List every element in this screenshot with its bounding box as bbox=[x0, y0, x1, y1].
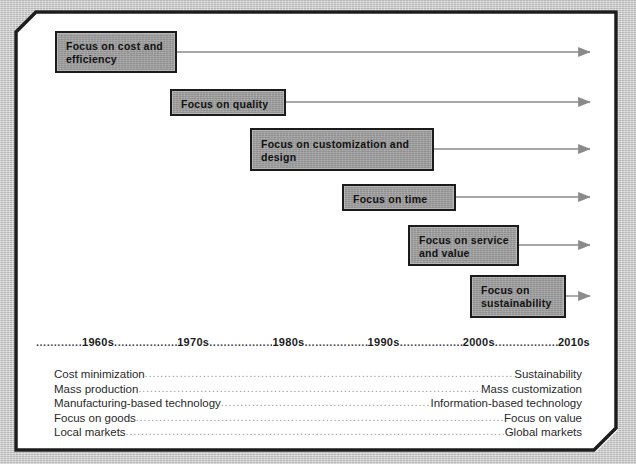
timeline-leader: ........................................… bbox=[495, 336, 558, 348]
transition-from: Manufacturing-based technology bbox=[54, 397, 221, 409]
transition-row: Cost minimization ......................… bbox=[54, 368, 582, 383]
dot-leader: ........................................… bbox=[138, 383, 481, 394]
dot-leader: ........................................… bbox=[145, 368, 514, 379]
decade-label-1960s: 1960s bbox=[82, 336, 114, 348]
focus-box-cost-efficiency: Focus on cost and efficiency bbox=[55, 31, 177, 73]
transition-to: Information-based technology bbox=[430, 397, 582, 409]
transition-row: Mass production ........................… bbox=[54, 383, 582, 398]
dot-leader: ........................................… bbox=[221, 397, 431, 408]
transition-list: Cost minimization ......................… bbox=[54, 368, 582, 441]
focus-box-time: Focus on time bbox=[342, 184, 456, 211]
transition-to: Focus on value bbox=[504, 412, 582, 424]
focus-box-service-value: Focus on service and value bbox=[408, 225, 519, 266]
timeline-leader: ........................................… bbox=[304, 336, 367, 348]
decade-label-1990s: 1990s bbox=[368, 336, 400, 348]
transition-from: Cost minimization bbox=[54, 368, 145, 380]
decade-timeline: ........................................… bbox=[36, 336, 592, 352]
transition-to: Mass customization bbox=[481, 383, 582, 395]
transition-to: Global markets bbox=[505, 426, 582, 438]
timeline-leader: ........................................… bbox=[114, 336, 177, 348]
focus-box-customization-design: Focus on customization and design bbox=[250, 128, 434, 171]
dot-leader: ........................................… bbox=[126, 426, 505, 437]
timeline-leader: ........................................… bbox=[400, 336, 463, 348]
transition-to: Sustainability bbox=[514, 368, 582, 380]
transition-from: Local markets bbox=[54, 426, 126, 438]
focus-box-sustainability: Focus on sustainability bbox=[470, 275, 566, 318]
transition-row: Local markets ..........................… bbox=[54, 426, 582, 441]
transition-row: Manufacturing-based technology .........… bbox=[54, 397, 582, 412]
transition-from: Focus on goods bbox=[54, 412, 136, 424]
transition-row: Focus on goods .........................… bbox=[54, 412, 582, 427]
decade-label-1970s: 1970s bbox=[177, 336, 209, 348]
decade-label-2010s: 2010s bbox=[558, 336, 590, 348]
timeline-leader: ........................................… bbox=[209, 336, 272, 348]
decade-label-1980s: 1980s bbox=[272, 336, 304, 348]
dot-leader: ........................................… bbox=[136, 412, 504, 423]
transition-from: Mass production bbox=[54, 383, 138, 395]
focus-box-quality: Focus on quality bbox=[170, 89, 286, 116]
timeline-leader: ........................................… bbox=[36, 336, 82, 348]
diagram-canvas: Focus on cost and efficiency Focus on qu… bbox=[0, 0, 636, 464]
decade-label-2000s: 2000s bbox=[463, 336, 495, 348]
